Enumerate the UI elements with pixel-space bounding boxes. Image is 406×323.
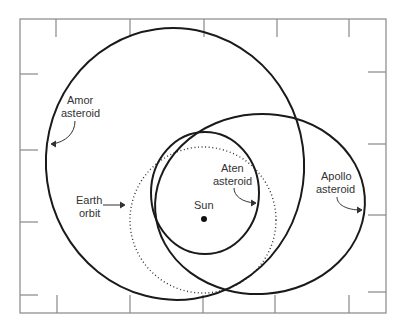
apollo-label-line2: asteroid [316, 183, 355, 195]
amor-arrow-icon [51, 121, 75, 147]
amor-label-line1: Amor [67, 94, 94, 106]
sun-label: Sun [194, 199, 214, 211]
earth-label-line1: Earth [76, 194, 102, 206]
apollo-label-line1: Apollo [321, 170, 352, 182]
sun-dot [201, 216, 207, 222]
aten-label-line2: asteroid [213, 175, 252, 187]
aten-label-line1: Aten [221, 162, 244, 174]
apollo-orbit [149, 107, 371, 301]
amor-orbit [28, 11, 321, 316]
asteroid-orbits-diagram: Sun Amor asteroid Aten asteroid Apollo a… [0, 0, 406, 323]
aten-orbit [151, 132, 259, 254]
aten-arrow-icon [234, 188, 256, 206]
earth-label-line2: orbit [79, 207, 100, 219]
apollo-arrow-icon [337, 197, 362, 213]
earth-arrow-icon [103, 202, 125, 208]
amor-label-line2: asteroid [61, 107, 100, 119]
